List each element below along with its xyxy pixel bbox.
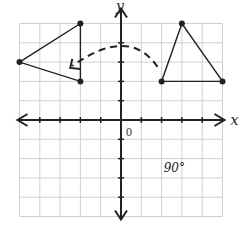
rotation-angle-label: 90° [164, 161, 185, 175]
vertex-point [179, 21, 185, 27]
x-axis-label: x [231, 112, 239, 128]
vertex-point [77, 21, 83, 27]
vertex-point [77, 78, 83, 84]
coordinate-plane-diagram: x y 0 90° [0, 0, 244, 230]
original-triangle [159, 21, 226, 85]
origin-label: 0 [126, 125, 132, 139]
vertex-point [220, 78, 226, 84]
rotation-arrow-arc [72, 46, 157, 67]
vertex-point [159, 78, 165, 84]
plane-svg: x y 0 90° [0, 0, 244, 230]
rotated-triangle [17, 21, 84, 85]
vertex-point [17, 59, 23, 65]
y-axis-label: y [115, 0, 125, 14]
